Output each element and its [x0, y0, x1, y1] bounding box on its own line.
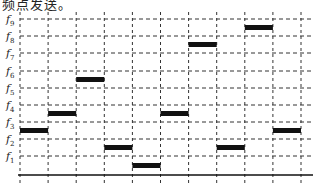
hop-bar: [245, 25, 273, 30]
hop-bar: [273, 128, 301, 133]
label-f3: f3: [5, 116, 15, 131]
hop-bar: [189, 42, 217, 47]
hop-bar: [161, 111, 189, 116]
label-f9: f9: [5, 13, 15, 28]
label-f2: f2: [5, 133, 15, 148]
label-f8: f8: [5, 30, 15, 45]
hop-bar: [104, 145, 132, 150]
hop-bar: [48, 111, 76, 116]
frequency-hopping-diagram: f1f2f3f4f5f6f7f8f9: [0, 0, 317, 188]
label-f6: f6: [5, 65, 15, 80]
label-f4: f4: [5, 99, 15, 114]
label-f1: f1: [5, 150, 15, 165]
hop-bar: [132, 163, 160, 168]
label-f5: f5: [5, 82, 15, 97]
label-f7: f7: [5, 47, 15, 62]
hop-bar: [20, 128, 48, 133]
hop-bar: [76, 77, 104, 82]
hop-bar: [217, 145, 245, 150]
